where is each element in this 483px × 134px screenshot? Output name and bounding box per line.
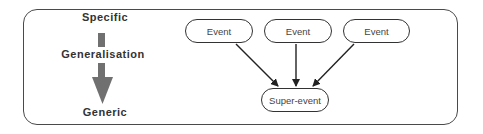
generalisation-label: Generalisation	[48, 48, 158, 60]
connector-event-1	[236, 44, 278, 86]
connector-event-3	[313, 44, 354, 86]
super-event-node: Super-event	[261, 88, 329, 112]
event-node-2: Event	[264, 19, 332, 43]
event-node-3: Event	[343, 19, 410, 43]
specific-label: Specific	[60, 11, 150, 23]
event-node-1: Event	[185, 19, 253, 43]
generalisation-arrow-icon	[92, 33, 113, 104]
generic-label: Generic	[60, 106, 150, 118]
